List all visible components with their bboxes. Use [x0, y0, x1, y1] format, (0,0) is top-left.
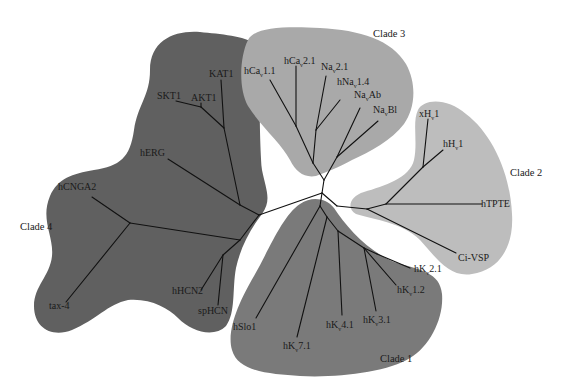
clade-4-label: Clade 4	[20, 221, 53, 232]
leaf-hcnga2: hCNGA2	[58, 181, 96, 192]
leaf-sphcn: spHCN	[198, 305, 228, 316]
leaf-civsp: Ci-VSP	[458, 252, 490, 263]
leaf-tax4: tax-4	[49, 300, 70, 311]
leaf-hslo1: hSlo1	[233, 321, 256, 332]
leaf-kat1: KAT1	[209, 68, 233, 79]
clade-3-label: Clade 3	[373, 28, 405, 39]
leaf-herg: hERG	[140, 147, 165, 158]
leaf-htpte: hTPTE	[481, 198, 510, 209]
leaf-hhcn2: hHCN2	[172, 285, 203, 296]
branch-root-clade3	[322, 180, 324, 193]
leaf-akt1: AKT1	[191, 92, 217, 103]
clade-3-region	[241, 27, 413, 176]
clade-1-label: Clade 1	[380, 353, 412, 364]
leaf-skt1: SKT1	[157, 90, 181, 101]
clade-2-label: Clade 2	[510, 167, 542, 178]
phylogenetic-tree: KAT1 SKT1 AKT1 hERG hCNGA2 tax-4 hHCN2 s…	[0, 0, 566, 381]
